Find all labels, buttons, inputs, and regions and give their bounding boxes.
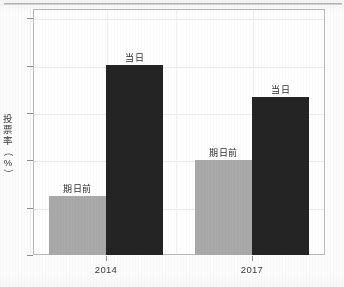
bar-2017-tojitsu	[252, 97, 309, 255]
y-tick-mark	[27, 18, 33, 19]
y-tick-mark	[27, 113, 33, 114]
y-tick-mark	[27, 208, 33, 209]
x-tick-mark	[106, 256, 107, 261]
bar-chart-figure: 投 票 率 （ % ） 010203040502014期日前当日2017期日前当…	[0, 0, 344, 287]
chart-overlay: 010203040502014期日前当日2017期日前当日	[0, 0, 344, 287]
y-tick-mark	[27, 255, 33, 256]
bar-2017-kijitsumae	[195, 160, 252, 255]
bar-label: 期日前	[209, 146, 238, 159]
bar-2014-kijitsumae	[49, 196, 106, 255]
x-tick-label: 2017	[241, 264, 263, 275]
bar-2014-tojitsu	[106, 65, 163, 255]
x-tick-label: 2014	[95, 264, 117, 275]
bar-label: 期日前	[63, 182, 92, 195]
bar-label: 当日	[271, 83, 290, 96]
bar-label: 当日	[125, 51, 144, 64]
y-tick-mark	[27, 66, 33, 67]
y-tick-mark	[27, 160, 33, 161]
x-tick-mark	[252, 256, 253, 261]
